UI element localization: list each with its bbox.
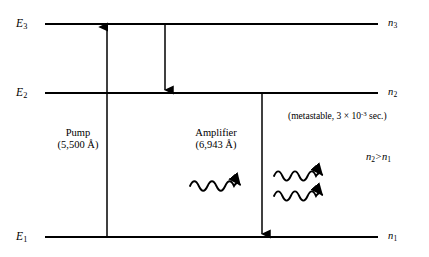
metastable-lifetime-note: (metastable, 3 × 10-3 sec.) (288, 110, 387, 122)
population-label-n3-subscript: 3 (393, 21, 397, 30)
inversion-right-subscript: 1 (387, 155, 391, 164)
incident-photon-wave (190, 181, 240, 190)
population-label-n1: n1 (388, 230, 397, 244)
level-label-e3: E3 (16, 17, 27, 32)
level-label-e3-subscript: 3 (23, 22, 27, 31)
population-inversion-label: n2>n1 (366, 151, 391, 164)
energy-level-diagram: E3 E2 E1 n3 n2 n1 (metastable, 3 × 10-3 … (0, 0, 429, 257)
amplifier-wavelength-label: (6,943 Å) (176, 139, 256, 151)
pump-name-label: Pump (38, 127, 118, 139)
metastable-note-times: × (341, 111, 351, 121)
inversion-relation-symbol: > (375, 151, 382, 162)
level-label-e1: E1 (16, 230, 27, 245)
population-label-n1-subscript: 1 (393, 234, 397, 243)
metastable-note-suffix: sec.) (367, 111, 387, 121)
level-label-e2-subscript: 2 (23, 91, 27, 100)
level-label-e1-subscript: 1 (23, 235, 27, 244)
pump-transition-caption: Pump (5,500 Å) (38, 127, 118, 152)
emitted-photon-waves (274, 171, 322, 200)
emitted-photon-wave-1 (274, 171, 322, 180)
pump-wavelength-label: (5,500 Å) (38, 139, 118, 151)
amplifier-name-label: Amplifier (176, 127, 256, 139)
population-label-n3: n3 (388, 17, 397, 31)
metastable-note-mantissa: 10 (351, 111, 361, 121)
amplifier-transition-caption: Amplifier (6,943 Å) (176, 127, 256, 152)
level-label-e2: E2 (16, 86, 27, 101)
population-label-n2-subscript: 2 (393, 90, 397, 99)
metastable-note-prefix: (metastable, 3 (288, 111, 341, 121)
population-label-n2: n2 (388, 86, 397, 100)
emitted-photon-wave-2 (274, 191, 322, 200)
